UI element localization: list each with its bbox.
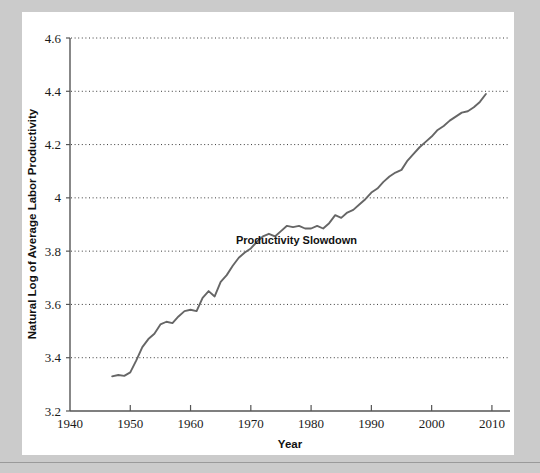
x-tick-label: 1950: [117, 416, 143, 431]
y-tick-label: 4.6: [45, 31, 62, 46]
y-tick-label: 3.6: [45, 297, 62, 312]
annotation-productivity-slowdown: Productivity Slowdown: [236, 234, 357, 246]
x-tick-label: 1990: [358, 416, 384, 431]
y-axis-ticks: 3.23.43.63.844.24.44.6: [45, 31, 70, 419]
x-axis-title: Year: [278, 438, 303, 450]
y-tick-label: 3.4: [45, 350, 62, 365]
y-tick-label: 4.2: [45, 137, 61, 152]
productivity-line-chart: 3.23.43.63.844.24.44.6 19401950196019701…: [0, 0, 540, 473]
gridlines: [71, 38, 510, 358]
y-tick-label: 3.8: [45, 244, 61, 259]
x-tick-label: 2010: [479, 416, 505, 431]
x-tick-label: 1940: [57, 416, 83, 431]
y-tick-label: 4: [55, 190, 62, 205]
y-tick-label: 4.4: [45, 84, 62, 99]
y-axis-title: Natural Log of Average Labor Productivit…: [26, 108, 38, 339]
figure-background: 3.23.43.63.844.24.44.6 19401950196019701…: [0, 0, 540, 473]
x-tick-label: 1970: [238, 416, 264, 431]
x-axis-ticks: 19401950196019701980199020002010: [57, 405, 505, 431]
x-tick-label: 1960: [178, 416, 204, 431]
x-tick-label: 2000: [419, 416, 445, 431]
x-tick-label: 1980: [298, 416, 324, 431]
